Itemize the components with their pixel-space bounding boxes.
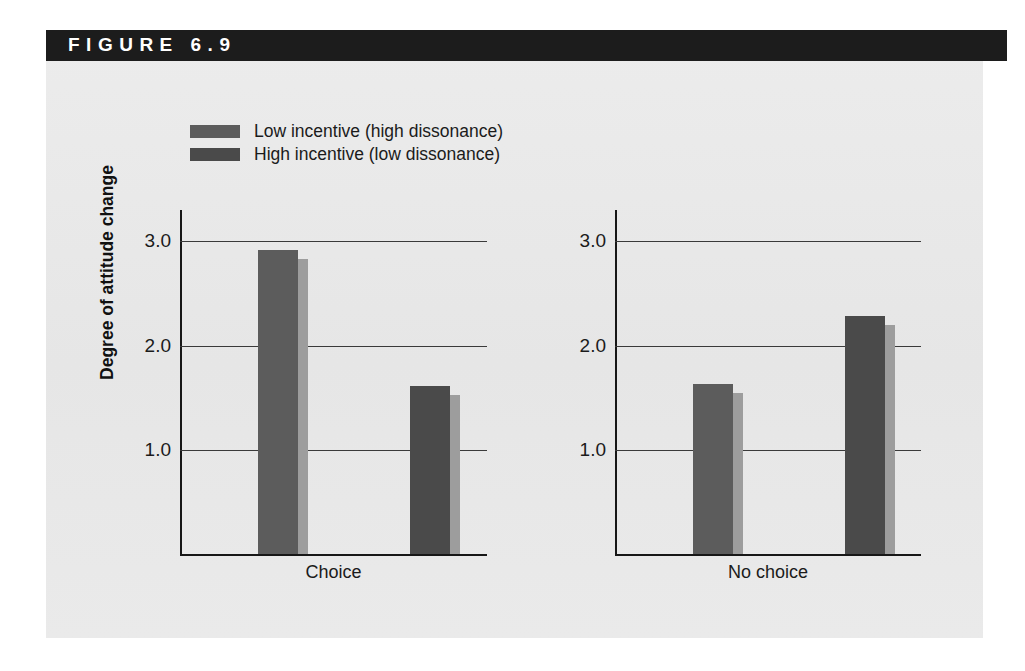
y-axis-line — [180, 210, 182, 555]
bar-body — [410, 386, 450, 554]
bar-shade — [450, 395, 460, 554]
legend-swatch-low-incentive — [190, 125, 240, 138]
x-axis-line — [615, 554, 921, 556]
category-label-choice: Choice — [180, 562, 487, 583]
gridline-3-0 — [615, 241, 921, 242]
gridline-2-0 — [180, 346, 487, 347]
bar-choice-high-incentive — [410, 386, 460, 554]
legend-swatch-high-incentive — [190, 148, 240, 161]
legend-item: High incentive (low dissonance) — [190, 143, 610, 165]
chart-panel-no-choice: 3.0 2.0 1.0 No choice — [615, 210, 921, 556]
chart-legend: Low incentive (high dissonance) High inc… — [190, 120, 610, 166]
y-tick-label: 1.0 — [145, 439, 171, 461]
y-axis-title: Degree of attitude change — [97, 138, 118, 408]
bar-no-choice-low-incentive — [693, 384, 743, 554]
y-tick-label: 2.0 — [580, 335, 606, 357]
y-tick-label: 3.0 — [580, 230, 606, 252]
bar-shade — [885, 325, 895, 554]
x-axis-line — [180, 554, 487, 556]
y-axis-line — [615, 210, 617, 555]
y-tick-label: 1.0 — [580, 439, 606, 461]
figure-header-bar: FIGURE 6.9 — [46, 30, 1007, 61]
legend-label-high-incentive: High incentive (low dissonance) — [254, 144, 500, 164]
bar-shade — [733, 393, 743, 554]
gridline-3-0 — [180, 241, 487, 242]
y-tick-label: 3.0 — [145, 230, 171, 252]
category-label-no-choice: No choice — [615, 562, 921, 583]
chart-panel-choice: 3.0 2.0 1.0 Choice — [180, 210, 487, 556]
bar-choice-low-incentive — [258, 250, 308, 554]
bar-body — [693, 384, 733, 554]
bar-body — [845, 316, 885, 554]
bar-body — [258, 250, 298, 554]
bar-no-choice-high-incentive — [845, 316, 895, 554]
legend-label-low-incentive: Low incentive (high dissonance) — [254, 121, 503, 141]
bar-shade — [298, 259, 308, 554]
figure-root: FIGURE 6.9 Low incentive (high dissonanc… — [0, 0, 1025, 671]
figure-number-label: FIGURE 6.9 — [68, 34, 236, 56]
legend-item: Low incentive (high dissonance) — [190, 120, 610, 142]
y-tick-label: 2.0 — [145, 335, 171, 357]
